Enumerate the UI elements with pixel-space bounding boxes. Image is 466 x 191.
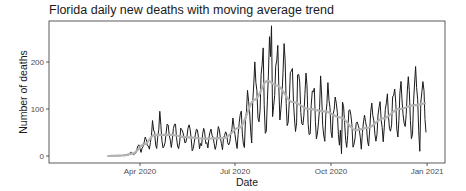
y-tick-label: 200 (31, 58, 45, 67)
y-axis-title: Number of deaths (17, 50, 29, 133)
x-tick-label: Apr 2020 (124, 167, 157, 176)
x-axis: Apr 2020Jul 2020Oct 2020Jan 2021 (124, 163, 444, 176)
x-tick-label: Oct 2020 (315, 167, 348, 176)
y-tick-label: 100 (31, 105, 45, 114)
x-tick-label: Jul 2020 (220, 167, 251, 176)
x-axis-title: Date (236, 176, 258, 188)
line-chart: 0100200 Apr 2020Jul 2020Oct 2020Jan 2021… (0, 0, 466, 191)
y-axis: 0100200 (31, 58, 49, 161)
y-tick-label: 0 (40, 152, 45, 161)
x-tick-label: Jan 2021 (411, 167, 444, 176)
